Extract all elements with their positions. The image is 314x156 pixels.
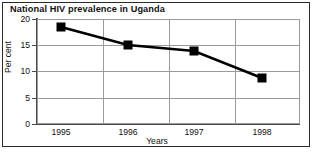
gridline-x-2	[169, 20, 170, 123]
plot-area	[37, 19, 300, 124]
y-axis-label: Per cent	[3, 32, 13, 82]
chart-title: National HIV prevalence in Uganda	[10, 4, 165, 14]
chart-figure: National HIV prevalence in Uganda 20 15 …	[0, 0, 314, 156]
y-tick-20: 20	[14, 19, 30, 20]
gridline-x-3	[235, 20, 236, 123]
x-axis-label: Years	[0, 136, 314, 146]
y-tick-5: 5	[14, 98, 30, 99]
y-tick-10: 10	[14, 71, 30, 72]
gridline-x-1	[103, 20, 104, 123]
y-tick-0: 0	[14, 124, 30, 125]
y-tick-15: 15	[14, 45, 30, 46]
